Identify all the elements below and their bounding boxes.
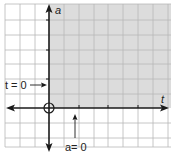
- vertical-axis-label: a: [55, 4, 61, 16]
- a-zero-label: a= 0: [65, 141, 87, 153]
- coordinate-plane: a t t = 0 a= 0: [0, 0, 171, 157]
- t-zero-label: t = 0: [5, 79, 27, 91]
